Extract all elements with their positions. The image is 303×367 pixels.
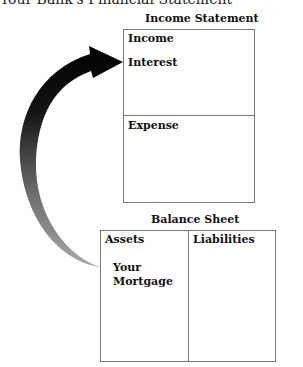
curved-arrow-icon [0, 0, 303, 367]
